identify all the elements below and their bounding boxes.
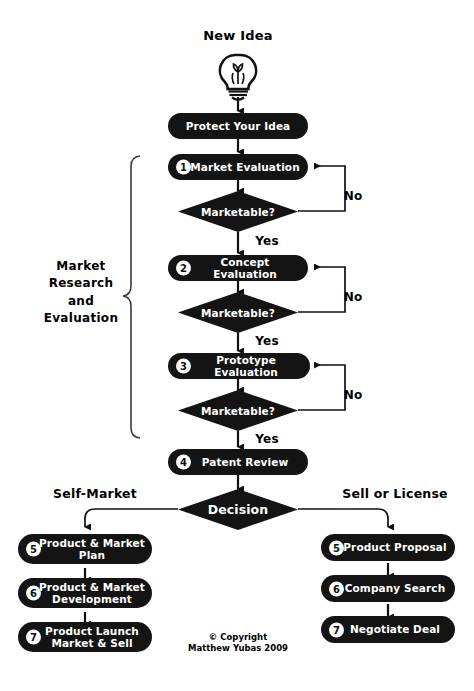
step-badge-2: 2 — [176, 261, 191, 276]
edge-label-yes-3: Yes — [250, 432, 284, 446]
diamond-shape — [178, 292, 298, 333]
decision-marketable-3[interactable]: Marketable? — [178, 390, 298, 431]
step-badge-4: 4 — [176, 455, 191, 470]
step-badge-7-right: 7 — [329, 622, 344, 637]
branch-label-self-market: Self-Market — [34, 487, 156, 502]
diamond-shape — [178, 390, 298, 431]
market-research-group-label: Market Research and Evaluation — [36, 258, 126, 328]
edge-label-no-2: No — [336, 290, 370, 304]
node-company-search[interactable]: 6 Company Search — [321, 575, 455, 602]
node-negotiate-deal[interactable]: 7 Negotiate Deal — [321, 616, 455, 643]
diamond-shape — [178, 191, 298, 232]
edge-label-yes-1: Yes — [250, 234, 284, 248]
edge-label-no-1: No — [336, 189, 370, 203]
edge-decision-to-self-market — [85, 509, 178, 527]
step-badge-5-left: 5 — [26, 542, 41, 557]
step-badge-5-right: 5 — [329, 540, 344, 555]
copyright-notice: © Copyright Matthew Yubas 2009 — [186, 632, 290, 654]
step-badge-6-right: 6 — [329, 581, 344, 596]
node-concept-evaluation[interactable]: 2 Concept Evaluation — [168, 255, 308, 281]
node-product-proposal[interactable]: 5 Product Proposal — [321, 534, 455, 561]
step-badge-7-left: 7 — [26, 630, 41, 645]
branch-label-sell-or-license: Sell or License — [330, 487, 460, 502]
decision-marketable-1[interactable]: Marketable? — [178, 191, 298, 232]
diamond-shape — [178, 489, 298, 530]
page-title: New Idea — [188, 28, 288, 43]
decision-marketable-2[interactable]: Marketable? — [178, 292, 298, 333]
step-badge-3: 3 — [176, 359, 191, 374]
node-product-market-development[interactable]: 6 Product & Market Development — [18, 578, 152, 608]
edge-label-no-3: No — [336, 388, 370, 402]
lightbulb-icon — [220, 55, 256, 100]
step-badge-6-left: 6 — [26, 586, 41, 601]
node-product-market-plan[interactable]: 5 Product & Market Plan — [18, 534, 152, 564]
node-market-evaluation[interactable]: 1 Market Evaluation — [168, 154, 308, 180]
step-badge-1: 1 — [176, 160, 191, 175]
node-product-launch[interactable]: 7 Product Launch Market & Sell — [18, 622, 152, 652]
decision-node[interactable]: Decision — [178, 489, 298, 530]
node-prototype-evaluation[interactable]: 3 Prototype Evaluation — [168, 353, 310, 379]
flowchart-canvas: New Idea Market Research and Evaluation … — [0, 0, 474, 691]
node-patent-review[interactable]: 4 Patent Review — [168, 449, 308, 475]
edge-decision-to-sell-license — [298, 509, 388, 527]
node-protect-your-idea[interactable]: Protect Your Idea — [168, 113, 308, 139]
edge-label-yes-2: Yes — [250, 334, 284, 348]
node-label: Protect Your Idea — [168, 120, 308, 132]
